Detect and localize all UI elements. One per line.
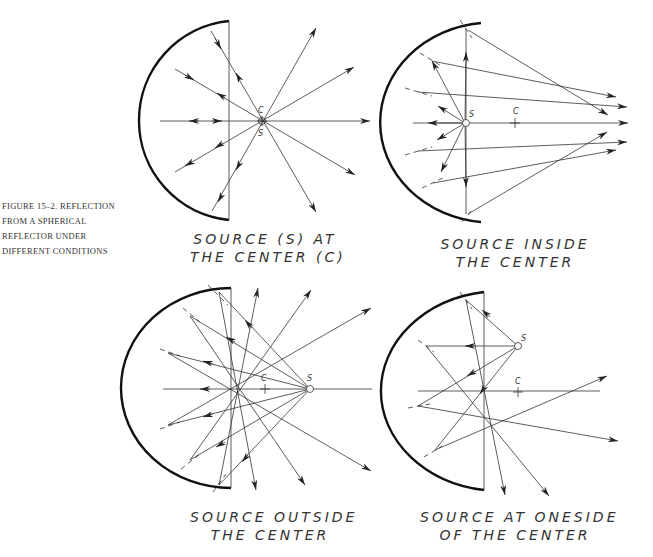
title-line: THE CENTER [440, 253, 590, 271]
svg-text:S: S [521, 334, 526, 343]
svg-text:S: S [258, 129, 263, 138]
panel-title-source-at-oneside: SOURCE AT ONESIDE OF THE CENTER [420, 508, 610, 544]
svg-text:C: C [513, 107, 519, 116]
panel-title-source-at-center: SOURCE (S) AT THE CENTER (C) [190, 230, 340, 266]
svg-text:C: C [258, 106, 264, 115]
title-line: THE CENTER [190, 526, 350, 544]
panel-source-inside-center [380, 20, 628, 222]
svg-text:S: S [307, 374, 312, 383]
title-line: SOURCE OUTSIDE [190, 508, 350, 526]
title-line: SOURCE INSIDE [440, 235, 590, 253]
panel-title-source-outside-center: SOURCE OUTSIDE THE CENTER [190, 508, 350, 544]
title-line: OF THE CENTER [420, 526, 610, 544]
svg-text:C: C [515, 377, 521, 386]
panel-source-outside-center [121, 285, 372, 492]
title-line: SOURCE (S) AT [190, 230, 340, 248]
panel-title-source-inside-center: SOURCE INSIDE THE CENTER [440, 235, 590, 271]
panel-source-at-center [139, 21, 370, 220]
svg-text:S: S [469, 110, 474, 119]
reflector-diagrams: CS SC CS CS [0, 0, 653, 557]
panel-source-at-oneside [381, 292, 618, 496]
title-line: THE CENTER (C) [190, 248, 340, 266]
title-line: SOURCE AT ONESIDE [420, 508, 610, 526]
svg-text:C: C [261, 374, 267, 383]
